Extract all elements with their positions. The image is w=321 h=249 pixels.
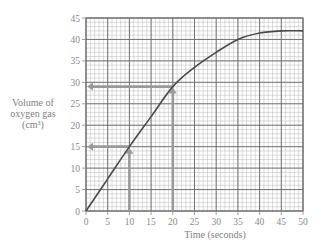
y-axis-label-line2: oxygen gas [2,108,64,119]
x-tick-label: 20 [168,217,178,227]
x-tick-label: 40 [255,217,265,227]
y-tick-label: 10 [71,164,81,174]
x-tick-label: 15 [146,217,156,227]
x-tick-label: 5 [105,217,110,227]
arrowhead-left-icon [87,83,93,91]
x-tick-label: 50 [298,217,308,227]
x-tick-label: 10 [125,217,135,227]
y-axis-label-line1: Volume of [2,97,64,108]
y-tick-label: 40 [71,35,81,45]
x-tick-label: 0 [84,217,89,227]
x-tick-label: 45 [277,217,287,227]
y-tick-label: 0 [75,207,80,217]
y-tick-label: 35 [71,56,81,66]
y-axis-label-line3: (cm³) [2,119,64,130]
arrowhead-left-icon [87,143,93,151]
x-tick-label: 25 [190,217,200,227]
y-tick-label: 45 [71,14,81,24]
major-gridlines [86,18,303,211]
y-axis-label: Volume of oxygen gas (cm³) [2,97,64,130]
y-tick-labels: 051015202530354045 [71,14,81,217]
y-tick-label: 25 [71,99,81,109]
y-tick-label: 20 [71,121,81,131]
x-tick-labels: 05101520253035404550 [84,217,308,227]
x-axis-label: Time (seconds) [150,229,280,240]
x-tick-label: 35 [233,217,243,227]
x-tick-label: 30 [211,217,221,227]
y-tick-label: 30 [71,78,81,88]
y-tick-label: 15 [71,142,81,152]
y-tick-label: 5 [75,185,80,195]
